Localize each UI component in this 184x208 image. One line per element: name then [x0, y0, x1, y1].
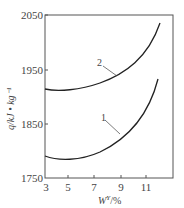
y-tick-2050: 2050	[21, 9, 44, 21]
plot-frame	[45, 15, 173, 178]
curve-2-label: 2	[97, 57, 102, 68]
curve-1-leader	[105, 120, 120, 134]
curve-2-leader	[103, 66, 117, 76]
y-axis-label: q/kJ • kg⁻¹	[5, 87, 16, 130]
x-axis-label: WY/%	[98, 194, 121, 206]
y-tick-1950: 1950	[21, 64, 44, 76]
x-tick-9: 9	[118, 181, 124, 193]
y-tick-1750: 1750	[21, 172, 44, 184]
x-tick-5: 5	[65, 181, 71, 193]
chart: 1750 1850 1950 2050 3 5 7 9 11 WY/% q/kJ…	[0, 0, 184, 208]
x-tick-3: 3	[43, 181, 49, 193]
y-tick-1850: 1850	[21, 118, 44, 130]
curve-1-label: 1	[101, 112, 106, 123]
x-tick-7: 7	[91, 181, 97, 193]
curve-2	[45, 23, 160, 90]
x-tick-11: 11	[141, 181, 152, 193]
